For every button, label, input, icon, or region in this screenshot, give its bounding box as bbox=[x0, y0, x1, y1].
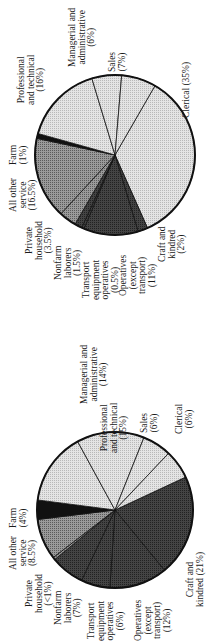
slice-label: Private household (<1%) bbox=[25, 574, 54, 613]
slice-label: Operatives (except transport) (11%) bbox=[119, 255, 157, 296]
slice-label: Craft and kindred (2%) bbox=[158, 226, 187, 262]
slice-label: Nonfarm laborers (7%) bbox=[54, 591, 83, 625]
slice-label: Transport equipment operatives (6%) bbox=[87, 601, 125, 641]
slice-label: Professional and technical (16%) bbox=[17, 55, 46, 105]
slice-label: Craft and kindred (21%) bbox=[186, 552, 205, 607]
slice-label: Farm (1%) bbox=[9, 145, 28, 165]
slice-label: Private household (3.5%) bbox=[25, 221, 54, 260]
slice-label: Transport equipment operatives (0.5%) bbox=[82, 260, 120, 300]
slice-label: All other service (8.5%) bbox=[9, 536, 38, 570]
slice-label: Managerial and administrative (14%) bbox=[80, 345, 109, 404]
slice-label: Managerial and administrative (6%) bbox=[68, 8, 97, 67]
slice-label: Professional and technical (15%) bbox=[100, 403, 129, 453]
pie-chart-bottom bbox=[37, 432, 193, 588]
slice-label: Farm (4%) bbox=[9, 508, 28, 528]
slice-label: Clerical (6%) bbox=[175, 404, 194, 434]
slice-label: Nonfarm laborers (1.5%) bbox=[54, 246, 83, 280]
slice-label: Clerical (35%) bbox=[182, 62, 192, 118]
slice-label: Sales (6%) bbox=[140, 413, 159, 433]
slice-label: All other service (16.5%) bbox=[9, 178, 38, 212]
slice-label: Sales (7%) bbox=[108, 52, 127, 72]
slice-label: Operatives (except transport) (12%) bbox=[134, 600, 172, 641]
pie-chart-top bbox=[35, 75, 195, 235]
